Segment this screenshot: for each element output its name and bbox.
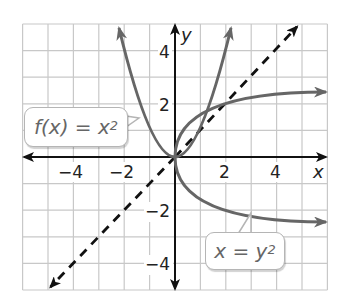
coordinate-plane: −4 −2 2 4 x 4 2 −2 −4 y (0, 0, 347, 306)
tick-label-y-neg4: −4 (145, 254, 170, 274)
callout-x-equals-y-squared: x = y2 (205, 232, 285, 270)
tick-label-x-neg2: −2 (109, 162, 134, 182)
callout-fx-base: f(x) = x (34, 115, 110, 139)
curve-f-x-equals-x-squared-right (175, 28, 231, 157)
callout-fx-exponent: 2 (110, 118, 118, 133)
line-y-equals-x (175, 27, 297, 157)
tick-label-x-4: 4 (270, 162, 281, 182)
tick-label-x-2: 2 (219, 162, 230, 182)
curve-x-equals-y-squared-upper (175, 92, 326, 157)
tick-label-x-neg4: −4 (58, 162, 83, 182)
callout-f-x-equals-x-squared: f(x) = x2 (24, 107, 128, 147)
callout-xy-exponent: 2 (267, 242, 275, 257)
curve-x-equals-y-squared-lower (175, 157, 326, 222)
x-axis-label: x (312, 161, 324, 182)
y-axis-label: y (180, 24, 192, 45)
tick-label-y-2: 2 (159, 95, 170, 115)
callout-xy-base: x = y (214, 239, 267, 263)
tick-label-y-neg2: −2 (145, 201, 170, 221)
tick-label-y-4: 4 (159, 42, 170, 62)
